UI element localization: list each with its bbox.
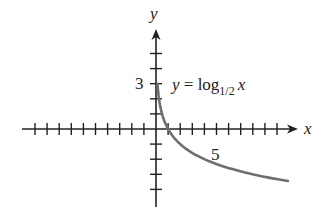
y-tick-label-3: 3 xyxy=(135,74,144,93)
log-curve xyxy=(158,84,288,181)
equation-lhs: y xyxy=(170,75,180,94)
x-tick-label-5: 5 xyxy=(211,145,220,164)
equation-label: y = log1/2x xyxy=(170,75,246,98)
y-axis-label: y xyxy=(148,4,158,23)
log-graph: y x 3 5 y = log1/2x xyxy=(0,0,329,224)
x-axis-label: x xyxy=(303,119,312,138)
equation-base: 1/2 xyxy=(219,84,234,98)
equation-log: = log xyxy=(180,75,220,94)
axes xyxy=(22,29,298,207)
equation-arg: x xyxy=(237,75,246,94)
